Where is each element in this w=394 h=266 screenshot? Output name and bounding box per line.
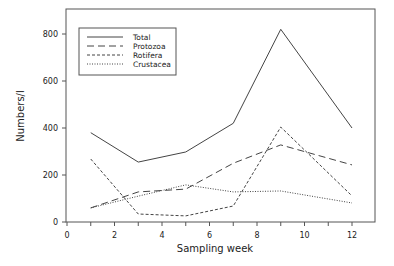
series-crustacea: [91, 185, 352, 208]
legend: TotalProtozoaRotiferaCrustacea: [79, 28, 176, 75]
legend-label: Total: [132, 33, 151, 42]
legend-label: Protozoa: [133, 42, 166, 51]
x-tick-label: 10: [299, 231, 309, 240]
x-tick-label: 6: [207, 231, 212, 240]
x-tick-label: 4: [159, 231, 164, 240]
y-tick-label: 400: [43, 124, 58, 133]
x-axis-label: Sampling week: [177, 243, 253, 254]
y-tick-label: 200: [43, 171, 58, 180]
x-tick-label: 0: [64, 231, 69, 240]
line-chart: 0200400600800 024681012 Sampling week Nu…: [0, 0, 394, 266]
y-tick-label: 0: [53, 218, 58, 227]
x-axis: 024681012: [64, 222, 357, 240]
y-tick-label: 800: [43, 30, 58, 39]
x-tick-label: 12: [347, 231, 357, 240]
legend-label: Rotifera: [133, 51, 162, 60]
x-tick-label: 8: [254, 231, 259, 240]
y-axis-label: Numbers/l: [15, 90, 26, 142]
series-rotifera: [91, 127, 352, 216]
y-tick-label: 600: [43, 77, 58, 86]
x-tick-label: 2: [112, 231, 117, 240]
y-axis: 0200400600800: [43, 30, 66, 227]
legend-label: Crustacea: [133, 60, 171, 69]
